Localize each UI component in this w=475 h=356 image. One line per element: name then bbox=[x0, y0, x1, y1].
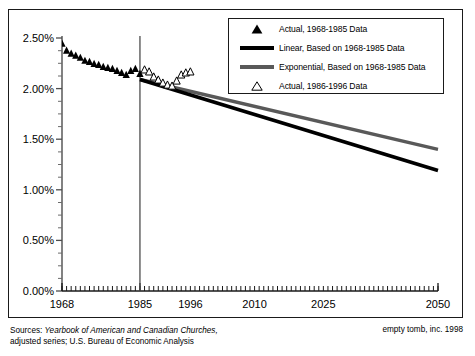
y-tick-label: 1.00% bbox=[23, 184, 54, 196]
legend-item-actual-1968-1985: Actual, 1968-1985 Data bbox=[229, 19, 443, 38]
y-tick-label: 1.50% bbox=[23, 133, 54, 145]
legend-label: Linear, Based on 1968-1985 Data bbox=[279, 43, 404, 53]
legend-item-linear: Linear, Based on 1968-1985 Data bbox=[229, 38, 443, 57]
actual-1968-1985-markers bbox=[58, 39, 143, 78]
chart-figure: 2.50% 2.00% 1.50% 1.00% 0.50% 0.00% 1968… bbox=[0, 0, 475, 356]
x-tick-label: 2010 bbox=[242, 298, 266, 310]
x-axis-minor-ticks bbox=[62, 286, 438, 291]
x-tick-label: 2050 bbox=[426, 298, 450, 310]
filled-triangle-icon bbox=[235, 24, 279, 34]
x-tick-label: 1968 bbox=[50, 298, 74, 310]
y-tick-label: 0.50% bbox=[23, 234, 54, 246]
legend-label: Actual, 1986-1996 Data bbox=[279, 81, 367, 91]
black-line-icon bbox=[235, 46, 279, 50]
legend-label: Exponential, Based on 1968-1985 Data bbox=[279, 62, 425, 72]
y-tick-label: 2.50% bbox=[23, 32, 54, 44]
y-tick-label: 2.00% bbox=[23, 83, 54, 95]
legend-item-exponential: Exponential, Based on 1968-1985 Data bbox=[229, 57, 443, 76]
gray-line-icon bbox=[235, 65, 279, 69]
y-tick-label: 0.00% bbox=[23, 285, 54, 297]
x-axis-tick-labels: 1968 1985 1996 2010 2025 2050 bbox=[50, 298, 450, 310]
x-tick-label: 2025 bbox=[311, 298, 335, 310]
sources-prefix: Sources: bbox=[10, 326, 45, 335]
sources-line-2: adjusted series; U.S. Bureau of Economic… bbox=[10, 336, 465, 347]
legend-label: Actual, 1968-1985 Data bbox=[279, 24, 367, 34]
publisher-credit: empty tomb, inc. 1998 bbox=[382, 325, 463, 334]
y-axis-tick-labels: 2.50% 2.00% 1.50% 1.00% 0.50% 0.00% bbox=[23, 32, 54, 297]
chart-legend: Actual, 1968-1985 Data Linear, Based on … bbox=[228, 18, 444, 94]
x-tick-label: 1996 bbox=[178, 298, 202, 310]
actual-1986-1996-markers bbox=[141, 66, 194, 89]
sources-italic: Yearbook of American and Canadian Church… bbox=[45, 326, 218, 335]
x-tick-label: 1985 bbox=[128, 298, 152, 310]
open-triangle-icon bbox=[235, 81, 279, 91]
legend-item-actual-1986-1996: Actual, 1986-1996 Data bbox=[229, 76, 443, 95]
